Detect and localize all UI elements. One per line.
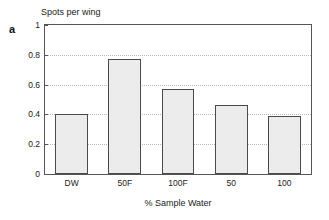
y-tick-mark xyxy=(45,25,48,26)
y-tick-label: 0.8 xyxy=(28,51,40,60)
gridline xyxy=(45,55,311,56)
y-tick-mark xyxy=(45,85,48,86)
figure-panel: a Spots per wing 00.20.40.60.81DW50F100F… xyxy=(0,0,329,220)
bar xyxy=(215,105,248,174)
y-axis-title: Spots per wing xyxy=(41,8,101,17)
y-tick-label: 0.4 xyxy=(28,110,40,119)
y-tick-mark xyxy=(45,114,48,115)
bar xyxy=(108,59,141,174)
gridline xyxy=(45,85,311,86)
x-tick-label: 100 xyxy=(277,179,291,188)
x-tick-label: 50F xyxy=(117,179,132,188)
bar xyxy=(268,116,301,174)
bar xyxy=(55,114,88,174)
y-tick-mark xyxy=(45,144,48,145)
x-tick-label: 50 xyxy=(226,179,235,188)
x-tick-label: 100F xyxy=(168,179,187,188)
y-tick-mark xyxy=(45,55,48,56)
y-tick-label: 0.6 xyxy=(28,80,40,89)
x-tick-label: DW xyxy=(65,179,79,188)
bar xyxy=(162,89,195,174)
x-axis-title: % Sample Water xyxy=(44,199,312,208)
panel-label: a xyxy=(9,24,15,35)
y-tick-label: 1 xyxy=(35,21,40,30)
y-tick-label: 0 xyxy=(35,170,40,179)
y-tick-label: 0.2 xyxy=(28,140,40,149)
plot-area: 00.20.40.60.81DW50F100F50100 xyxy=(44,24,312,175)
y-tick-mark xyxy=(45,174,48,175)
